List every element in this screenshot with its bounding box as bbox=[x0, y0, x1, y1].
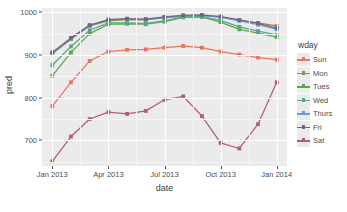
gridline-minor-vertical bbox=[80, 8, 81, 166]
data-point bbox=[69, 80, 73, 84]
data-point bbox=[256, 122, 260, 126]
data-point bbox=[125, 48, 129, 52]
data-point bbox=[88, 28, 92, 32]
data-point bbox=[125, 21, 129, 25]
legend-item-tues[interactable]: Tues bbox=[297, 80, 347, 94]
legend-key-swatch bbox=[297, 80, 310, 93]
data-point bbox=[88, 23, 92, 27]
gridline-minor-vertical bbox=[249, 8, 250, 166]
y-axis-tick-labels: 7008009001000 bbox=[14, 0, 42, 170]
data-point bbox=[69, 135, 73, 139]
data-point bbox=[237, 147, 241, 151]
x-axis-tick-mark bbox=[221, 166, 222, 169]
data-point bbox=[256, 21, 260, 25]
x-axis-tick-label: Jan 2014 bbox=[261, 170, 292, 179]
legend-key-point bbox=[302, 111, 306, 115]
x-axis-tick-label: Jul 2013 bbox=[150, 170, 178, 179]
chart-container: pred 7008009001000 Jan 2013Apr 2013Jul 2… bbox=[0, 0, 347, 212]
legend-item-mon[interactable]: Mon bbox=[297, 67, 347, 81]
legend-item-label: Wed bbox=[313, 96, 328, 105]
legend-key-point bbox=[302, 138, 306, 142]
legend-key-point bbox=[302, 125, 306, 129]
legend-key-point bbox=[302, 57, 306, 61]
data-point bbox=[69, 45, 73, 49]
plot-panel bbox=[42, 8, 287, 166]
legend: wday SunMonTuesWedThursFriSat bbox=[297, 40, 347, 148]
x-axis-tick-mark bbox=[165, 166, 166, 169]
data-point bbox=[144, 48, 148, 52]
x-axis-tick-label: Jan 2013 bbox=[37, 170, 68, 179]
data-point bbox=[125, 112, 129, 116]
legend-title: wday bbox=[297, 40, 347, 50]
legend-item-thurs[interactable]: Thurs bbox=[297, 107, 347, 121]
data-point bbox=[69, 51, 73, 55]
legend-item-wed[interactable]: Wed bbox=[297, 94, 347, 108]
data-point bbox=[237, 18, 241, 22]
x-axis-tick-mark bbox=[52, 166, 53, 169]
legend-key-point bbox=[302, 98, 306, 102]
data-point bbox=[88, 59, 92, 63]
legend-item-label: Sun bbox=[313, 55, 326, 64]
data-point bbox=[125, 17, 129, 21]
gridline-major-vertical bbox=[52, 8, 53, 166]
gridline-minor-vertical bbox=[193, 8, 194, 166]
data-point bbox=[181, 13, 185, 17]
legend-key-point bbox=[302, 84, 306, 88]
data-point bbox=[256, 29, 260, 33]
data-point bbox=[200, 13, 204, 17]
legend-key-swatch bbox=[297, 53, 310, 66]
data-point bbox=[144, 109, 148, 113]
data-point bbox=[69, 36, 73, 40]
legend-item-label: Thurs bbox=[313, 109, 332, 118]
data-point bbox=[144, 17, 148, 21]
data-point bbox=[200, 46, 204, 50]
legend-item-label: Mon bbox=[313, 69, 328, 78]
y-axis-tick-label: 1000 bbox=[20, 8, 37, 17]
y-axis-tick-label: 800 bbox=[24, 93, 37, 102]
legend-key-point bbox=[302, 71, 306, 75]
legend-key-swatch bbox=[297, 121, 310, 134]
legend-item-fri[interactable]: Fri bbox=[297, 121, 347, 135]
gridline-major-vertical bbox=[221, 8, 222, 166]
x-axis-tick-mark bbox=[277, 166, 278, 169]
legend-item-label: Tues bbox=[313, 82, 329, 91]
y-axis-title-label: pred bbox=[4, 76, 14, 94]
legend-item-sun[interactable]: Sun bbox=[297, 53, 347, 67]
data-point bbox=[144, 21, 148, 25]
legend-item-label: Sat bbox=[313, 136, 324, 145]
x-axis-tick-mark bbox=[108, 166, 109, 169]
legend-key-swatch bbox=[297, 94, 310, 107]
data-point bbox=[256, 56, 260, 60]
gridline-major-vertical bbox=[165, 8, 166, 166]
gridline-minor-vertical bbox=[136, 8, 137, 166]
legend-item-label: Fri bbox=[313, 123, 322, 132]
data-point bbox=[181, 44, 185, 48]
y-axis-tick-label: 900 bbox=[24, 50, 37, 59]
data-point bbox=[200, 114, 204, 118]
legend-items: SunMonTuesWedThursFriSat bbox=[297, 53, 347, 148]
x-axis-title: date bbox=[42, 183, 287, 193]
legend-key-swatch bbox=[297, 107, 310, 120]
x-axis-tick-labels: Jan 2013Apr 2013Jul 2013Oct 2013Jan 2014 bbox=[42, 170, 287, 182]
y-axis-tick-label: 700 bbox=[24, 136, 37, 145]
x-axis-title-label: date bbox=[156, 183, 174, 193]
x-axis-tick-label: Apr 2013 bbox=[93, 170, 123, 179]
legend-item-sat[interactable]: Sat bbox=[297, 134, 347, 148]
data-point bbox=[237, 25, 241, 29]
gridline-major-vertical bbox=[108, 8, 109, 166]
x-axis-tick-label: Oct 2013 bbox=[205, 170, 235, 179]
legend-key-swatch bbox=[297, 67, 310, 80]
legend-key-swatch bbox=[297, 134, 310, 147]
gridline-major-vertical bbox=[277, 8, 278, 166]
